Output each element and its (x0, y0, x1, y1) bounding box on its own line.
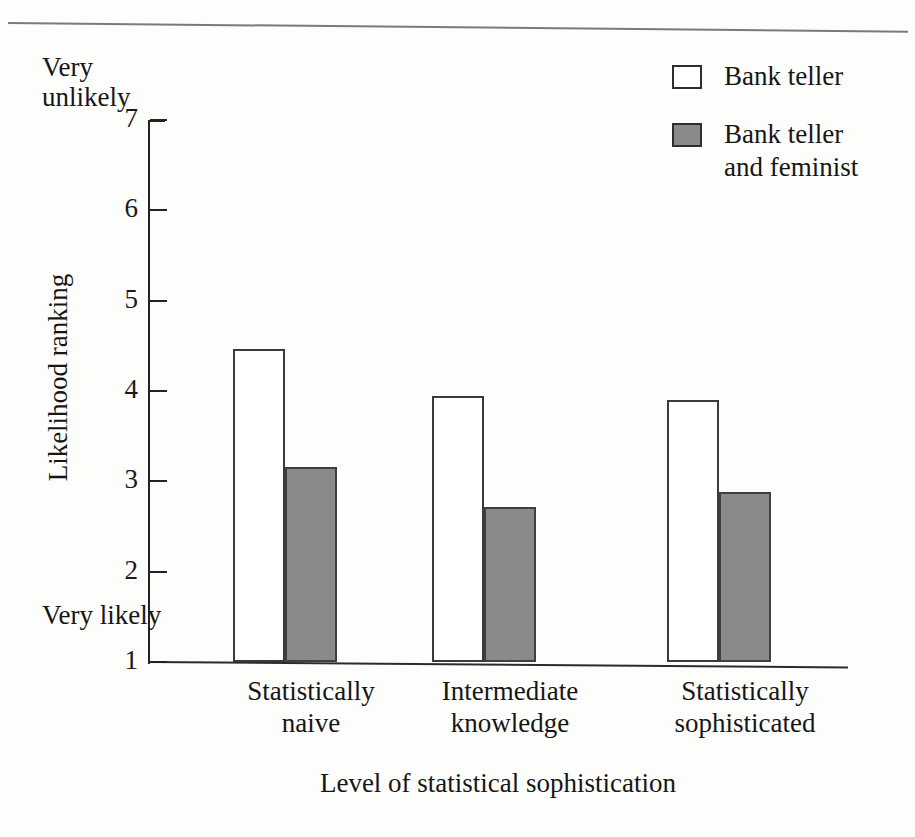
legend-item[interactable]: Bank teller (672, 60, 912, 92)
y-axis-tick-label: 1 (102, 647, 138, 674)
y-axis-title: Likelihood ranking (43, 258, 74, 498)
y-axis-top-annotation: Very unlikely (42, 52, 162, 112)
x-axis-category-label: Statistically sophisticated (620, 676, 870, 740)
y-axis-tick (150, 300, 167, 302)
y-axis-tick (150, 571, 167, 573)
legend: Bank tellerBank teller and feminist (672, 60, 912, 209)
bar (484, 507, 536, 662)
plot-area: 1234567 Very unlikely Very likely Likeli… (0, 0, 915, 837)
y-axis-tick (150, 119, 167, 121)
bar (233, 349, 285, 662)
legend-swatch-icon (672, 123, 702, 147)
legend-item-label: Bank teller (724, 60, 843, 92)
legend-item[interactable]: Bank teller and feminist (672, 118, 912, 183)
bar (719, 492, 771, 662)
y-axis-tick-label: 5 (102, 286, 138, 313)
x-axis-title: Level of statistical sophistication (148, 768, 848, 799)
bar (432, 396, 484, 662)
x-axis-line (148, 661, 848, 668)
y-axis-tick (150, 209, 167, 211)
figure-canvas: 1234567 Very unlikely Very likely Likeli… (0, 0, 915, 837)
y-axis-tick (150, 480, 167, 482)
y-axis-bottom-annotation: Very likely (42, 600, 162, 630)
y-axis-tick-label: 4 (102, 376, 138, 403)
y-axis-tick-label: 2 (102, 557, 138, 584)
bar (285, 467, 337, 662)
y-axis-tick (150, 390, 167, 392)
legend-item-label: Bank teller and feminist (724, 118, 858, 183)
y-axis-line (148, 120, 150, 664)
y-axis-tick-label: 3 (102, 466, 138, 493)
y-axis-tick (150, 661, 167, 663)
y-axis-tick-label: 6 (102, 195, 138, 222)
legend-swatch-icon (672, 65, 702, 89)
x-axis-category-label: Intermediate knowledge (385, 676, 635, 740)
bar (667, 400, 719, 662)
